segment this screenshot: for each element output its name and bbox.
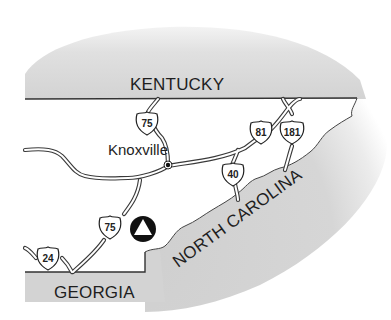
- regional-map: 75 81 181 40 75 24 Knoxville KENTUCKY GE…: [0, 0, 391, 320]
- shield-label: 75: [104, 222, 116, 233]
- shield-label: 75: [141, 118, 153, 129]
- kentucky-label: KENTUCKY: [130, 75, 224, 94]
- shield-label: 181: [284, 127, 301, 138]
- shield-label: 40: [227, 169, 239, 180]
- location-marker-icon: [130, 216, 156, 242]
- shield-label: 24: [42, 253, 54, 264]
- georgia-label: GEORGIA: [54, 283, 135, 302]
- shield-label: 81: [255, 127, 267, 138]
- kentucky-border-line: [25, 98, 357, 99]
- knoxville-label: Knoxville: [108, 141, 168, 158]
- knoxville-city-dot: [164, 161, 172, 169]
